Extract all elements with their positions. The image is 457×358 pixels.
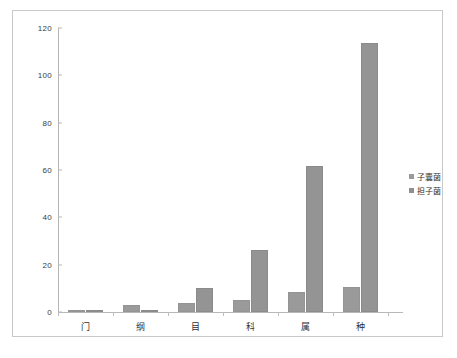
- bar: [361, 43, 378, 312]
- legend-item: 子囊菌: [409, 171, 442, 182]
- bar: [251, 250, 268, 312]
- x-axis-category-label: 纲: [136, 320, 145, 333]
- bar: [86, 310, 103, 312]
- bar: [233, 300, 250, 312]
- x-axis-category-label: 目: [191, 320, 200, 333]
- bar-group: [333, 28, 388, 312]
- bar-group: [168, 28, 223, 312]
- chart-legend: 子囊菌担子菌: [409, 171, 442, 199]
- x-axis-tick-mark: [333, 312, 334, 316]
- legend-item-label: 子囊菌: [417, 171, 442, 182]
- bar: [141, 310, 158, 312]
- y-axis-tick-label: 60: [43, 166, 59, 175]
- x-axis-category-label: 种: [356, 320, 365, 333]
- x-axis-tick-mark: [223, 312, 224, 316]
- x-axis-tick-mark: [113, 312, 114, 316]
- x-axis-tick-mark: [168, 312, 169, 316]
- y-axis-tick-label: 120: [38, 24, 58, 33]
- bar: [288, 292, 305, 312]
- bar-group: [113, 28, 168, 312]
- legend-item-label: 担子菌: [417, 185, 442, 196]
- bar-group: [58, 28, 113, 312]
- x-axis-category-label: 属: [301, 320, 310, 333]
- x-axis-category-label: 科: [246, 320, 255, 333]
- legend-item: 担子菌: [409, 185, 442, 196]
- y-axis-tick-label: 80: [43, 118, 59, 127]
- x-axis-category-label: 门: [81, 320, 90, 333]
- y-axis-tick-label: 100: [38, 71, 58, 80]
- y-axis-tick-label: 20: [43, 260, 59, 269]
- bar: [306, 166, 323, 312]
- bar: [196, 288, 213, 312]
- legend-swatch-icon: [409, 188, 414, 193]
- category-axis-line: [58, 312, 403, 313]
- bar-group: [278, 28, 333, 312]
- bars-layer: [58, 28, 388, 312]
- bar: [343, 287, 360, 312]
- x-axis-tick-mark: [388, 312, 389, 316]
- chart-frame: 020406080100120 门纲目科属种 子囊菌担子菌: [12, 10, 443, 337]
- y-axis-tick-label: 40: [43, 213, 59, 222]
- bar-group: [223, 28, 278, 312]
- bar: [123, 305, 140, 312]
- x-axis-tick-mark: [278, 312, 279, 316]
- bar: [68, 310, 85, 312]
- legend-swatch-icon: [409, 174, 414, 179]
- y-axis-tick-label: 0: [47, 308, 58, 317]
- x-axis-tick-mark: [58, 312, 59, 316]
- bar: [178, 303, 195, 312]
